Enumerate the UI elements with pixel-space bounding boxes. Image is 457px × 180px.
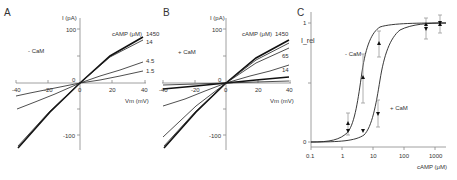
panel-c-points-plus-cam (346, 21, 442, 133)
panel-a-legend-title: cAMP (μM) (112, 31, 142, 37)
panel-b-trace-label-1450: 1450 (275, 31, 289, 37)
panel-b-xlabel: Vm (mV) (270, 98, 294, 104)
panel-b-condition: + CaM (178, 49, 196, 55)
panel-c-fit-plus-cam (311, 23, 446, 142)
panel-c-label-minus-cam: - CaM (345, 51, 361, 57)
panel-a-condition: - CaM (28, 48, 44, 54)
panel-a-xtick-20: 20 (109, 87, 116, 93)
panel-a-xtick-0: 0 (78, 87, 82, 93)
panel-a-trace-14 (18, 40, 143, 146)
panel-b-trace-label-65: 65 (282, 53, 289, 59)
panel-b-trace-1450b (164, 43, 289, 146)
panel-c-xtick-0.1: 0.1 (306, 153, 315, 159)
panel-a-ytick-100: 100 (66, 27, 77, 33)
panel-a-trace-label-1.5: 1.5 (146, 68, 155, 74)
panel-b-trace-label-14: 14 (282, 67, 289, 73)
panel-a-xtick-minus40: -40 (12, 87, 21, 93)
panel-c-points-minus-cam (346, 15, 442, 135)
panel-a: A I (pA) - CaM cAMP (μM) 100 0 -100 -40 … (4, 7, 160, 150)
panel-b-legend-title: cAMP (μM) (242, 31, 272, 37)
panel-c-ylabel: I_rel (301, 37, 315, 45)
panel-c-fit-minus-cam (311, 23, 446, 142)
panel-a-trace-label-14: 14 (146, 39, 153, 45)
panel-c: C I_rel 1 0 0.1 1 10 100 1000 cAMP (μM) … (297, 7, 447, 170)
panel-a-xtick-40: 40 (141, 87, 148, 93)
panel-a-ylabel: I (pA) (62, 15, 77, 21)
panel-a-ytick-minus100: -100 (63, 133, 76, 139)
panel-b-xtick-20: 20 (255, 87, 262, 93)
figure: A I (pA) - CaM cAMP (μM) 100 0 -100 -40 … (0, 0, 457, 180)
panel-a-xlabel: Vm (mV) (125, 98, 149, 104)
panel-c-xtick-1: 1 (341, 153, 345, 159)
panel-c-xlabel: cAMP (μM) (417, 164, 447, 170)
panel-a-trace-label-1450: 1450 (146, 31, 160, 37)
panel-c-label-plus-cam: + CaM (390, 105, 408, 111)
panel-c-xtick-1000: 1000 (429, 153, 443, 159)
panel-a-ytick-0: 0 (72, 77, 76, 83)
panel-b-ytick-0: 0 (218, 77, 222, 83)
panel-c-xtick-10: 10 (370, 153, 377, 159)
panel-b: B I (pA) + CaM cAMP (μM) 100 0 -100 -40 … (159, 7, 294, 150)
panel-b-xtick-40: 40 (286, 87, 293, 93)
panel-c-ytick-1: 1 (303, 20, 307, 26)
panel-c-ytick-0: 0 (303, 139, 307, 145)
panel-b-ylabel: I (pA) (210, 15, 225, 21)
panel-b-xtick-0: 0 (224, 87, 228, 93)
panel-b-label: B (163, 7, 170, 18)
panel-c-xtick-100: 100 (399, 153, 410, 159)
panel-a-label: A (4, 7, 11, 18)
panel-b-xtick-minus20: -20 (191, 87, 200, 93)
panel-a-trace-label-4.5: 4.5 (146, 58, 155, 64)
panel-c-label: C (297, 7, 304, 18)
panel-b-ytick-minus100: -100 (209, 133, 222, 139)
panel-b-ytick-100: 100 (212, 27, 223, 33)
